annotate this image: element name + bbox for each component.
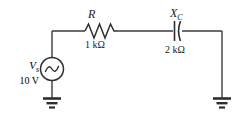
- resistor-designator-label: R: [88, 8, 95, 20]
- ground-bar-3: [49, 106, 55, 108]
- source-value-label: 10 V: [8, 75, 39, 86]
- resistor-symbol-text: R: [88, 7, 95, 21]
- capacitor-subscript-text: C: [177, 13, 182, 22]
- resistor-symbol: [85, 24, 117, 38]
- circuit-diagram: R 1 kΩ XC 2 kΩ Vs 10 V: [0, 0, 244, 125]
- source-symbol-text: V: [29, 59, 36, 71]
- ground-bar-1: [43, 97, 61, 100]
- ground-bar-2: [47, 102, 58, 104]
- capacitor-plate-right: [179, 21, 181, 41]
- source-subscript-text: s: [36, 65, 39, 74]
- ground-bar-3: [219, 106, 225, 108]
- ground-bar-1: [213, 97, 231, 100]
- resistor-value-label: 1 kΩ: [85, 40, 105, 50]
- ac-source-symbol: [41, 58, 64, 81]
- capacitor-designator-label: XC: [170, 7, 183, 22]
- source-designator-label: Vs: [8, 59, 39, 75]
- left-ground-symbol: [43, 97, 61, 108]
- source-label-group: Vs 10 V: [8, 59, 39, 86]
- ground-bar-2: [217, 102, 228, 104]
- capacitor-value-label: 2 kΩ: [165, 45, 185, 55]
- right-ground-symbol: [213, 97, 231, 108]
